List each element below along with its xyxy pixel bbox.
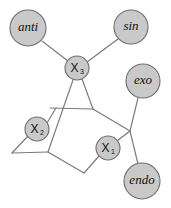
bond-edge-x1-junction (117, 131, 130, 141)
node-label-x2: X (30, 122, 38, 136)
node-label-exo: exo (134, 72, 153, 87)
node-label-x1: X (101, 141, 109, 155)
node-subscript-x3: 3 (80, 68, 84, 75)
node-exo[interactable]: exo (126, 64, 160, 98)
bond-edge-x2-bar (47, 108, 56, 123)
bond-edge-x3-ringB (82, 79, 93, 109)
node-x2[interactable]: X2 (25, 117, 49, 141)
bond-edge-junction-endo (130, 131, 138, 164)
bond-edge-anti-x3 (42, 41, 68, 61)
node-anti[interactable]: anti (10, 10, 46, 46)
node-subscript-x2: 2 (40, 129, 44, 136)
bond-edge-sin-x3 (87, 39, 118, 62)
node-label-endo: endo (129, 172, 155, 187)
molecular-structure-diagram: antisinX3exoX2X1endo (0, 0, 171, 208)
node-subscript-x1: 1 (111, 148, 115, 155)
node-label-sin: sin (123, 18, 138, 33)
bond-edge-bot-left-h (12, 152, 48, 153)
node-label-x3: X (70, 61, 78, 75)
bond-edge-ring-lower (48, 152, 84, 173)
bond-edge-bottom-x1 (84, 156, 99, 173)
bond-edge-x2-downleft (12, 136, 28, 153)
node-endo[interactable]: endo (124, 163, 160, 199)
node-x1[interactable]: X1 (96, 136, 120, 160)
bond-edge-topright-junction (93, 109, 130, 131)
node-x3[interactable]: X3 (65, 56, 89, 80)
bond-edge-exo-junction (130, 98, 138, 131)
node-sin[interactable]: sin (114, 10, 148, 44)
node-layer: antisinX3exoX2X1endo (10, 10, 160, 199)
diagram-canvas: antisinX3exoX2X1endo (0, 0, 171, 208)
node-label-anti: anti (18, 19, 39, 34)
